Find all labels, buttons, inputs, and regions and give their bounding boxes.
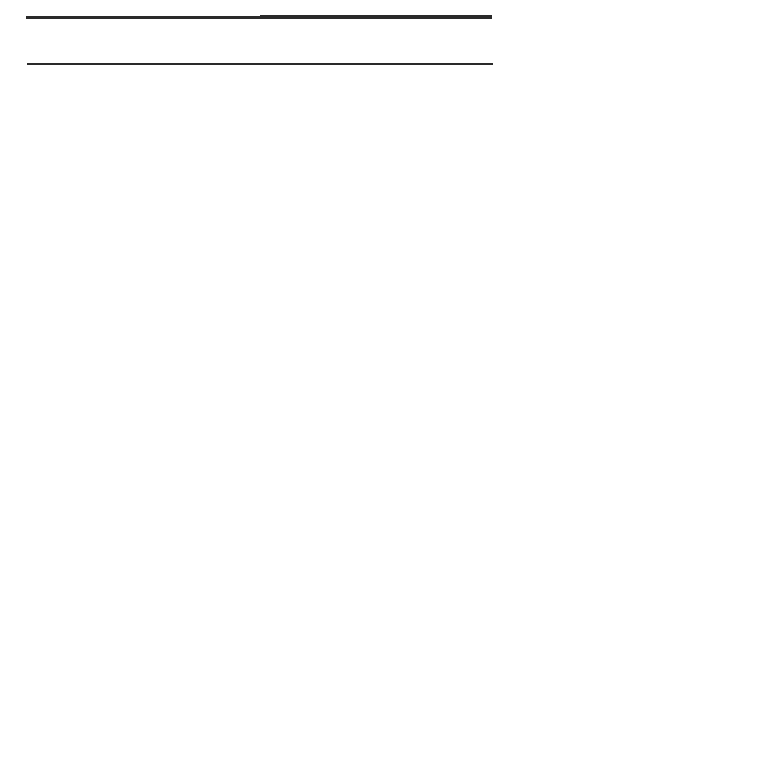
header-bottom-rule — [27, 63, 493, 65]
table-top-rule-right — [26, 16, 492, 18]
